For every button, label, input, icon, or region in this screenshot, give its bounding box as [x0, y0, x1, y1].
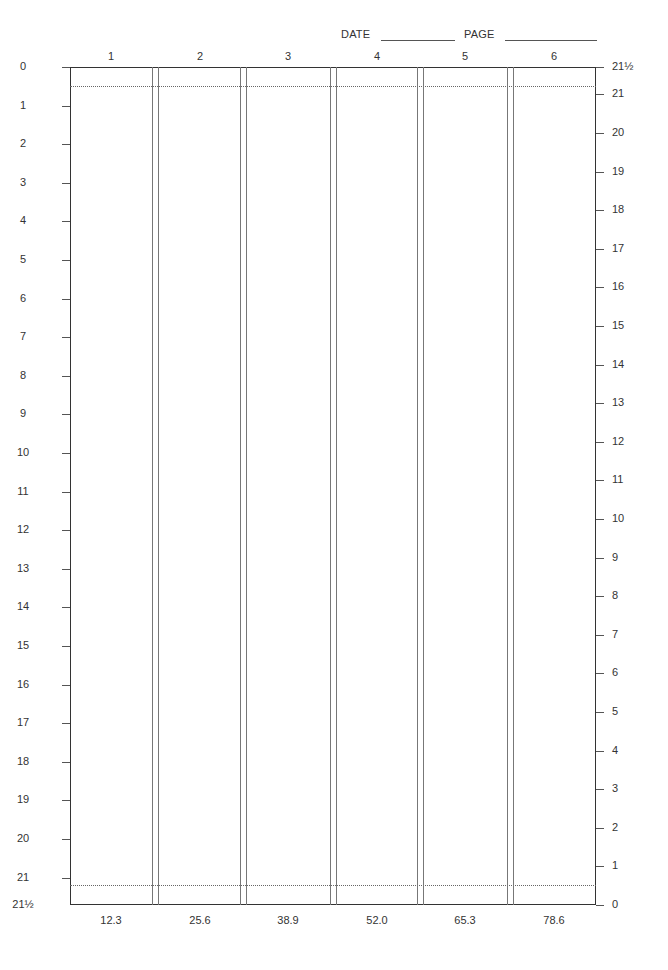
- left-scale-label: 20: [0, 832, 46, 844]
- right-scale-label: 21: [612, 87, 652, 99]
- right-scale-label: 8: [612, 589, 652, 601]
- right-scale-label: 14: [612, 358, 652, 370]
- right-tick: [596, 558, 604, 559]
- page-field[interactable]: [505, 40, 597, 41]
- left-tick: [62, 260, 70, 261]
- column-value-2: 25.6: [175, 914, 225, 926]
- right-tick: [596, 673, 604, 674]
- left-scale-label: 18: [0, 755, 46, 767]
- left-tick: [62, 685, 70, 686]
- column-divider: [513, 67, 514, 905]
- column-divider: [330, 67, 331, 905]
- left-tick: [62, 762, 70, 763]
- left-scale-label: 16: [0, 678, 46, 690]
- right-tick: [596, 519, 604, 520]
- right-tick: [596, 249, 604, 250]
- left-tick: [62, 607, 70, 608]
- right-scale-label: 6: [612, 666, 652, 678]
- right-tick: [596, 210, 604, 211]
- right-scale-label: 20: [612, 126, 652, 138]
- right-scale-label: 17: [612, 242, 652, 254]
- page-label: PAGE: [464, 28, 495, 40]
- right-tick: [596, 67, 604, 68]
- left-tick: [62, 569, 70, 570]
- left-scale-label: 12: [0, 523, 46, 535]
- column-value-1: 12.3: [86, 914, 136, 926]
- left-tick: [62, 144, 70, 145]
- left-scale-label: 21: [0, 871, 46, 883]
- right-tick: [596, 326, 604, 327]
- left-tick: [62, 878, 70, 879]
- column-label-5: 5: [445, 50, 485, 62]
- left-tick: [62, 800, 70, 801]
- right-tick: [596, 751, 604, 752]
- column-label-2: 2: [180, 50, 220, 62]
- column-value-3: 38.9: [263, 914, 313, 926]
- right-scale-label: 18: [612, 203, 652, 215]
- right-scale-label: 15: [612, 319, 652, 331]
- right-tick: [596, 365, 604, 366]
- left-tick: [62, 221, 70, 222]
- right-tick: [596, 712, 604, 713]
- left-scale-label: 21½: [0, 898, 46, 910]
- left-tick: [62, 376, 70, 377]
- right-tick: [596, 905, 604, 906]
- right-tick: [596, 635, 604, 636]
- right-tick: [596, 403, 604, 404]
- left-scale-label: 19: [0, 793, 46, 805]
- right-scale-label: 3: [612, 782, 652, 794]
- left-scale-label: 5: [0, 253, 46, 265]
- column-divider: [152, 67, 153, 905]
- right-scale-label: 11: [612, 473, 652, 485]
- left-scale-label: 9: [0, 407, 46, 419]
- right-tick: [596, 287, 604, 288]
- right-scale-label: 2: [612, 821, 652, 833]
- left-tick: [62, 337, 70, 338]
- right-tick: [596, 596, 604, 597]
- column-label-6: 6: [534, 50, 574, 62]
- right-tick: [596, 442, 604, 443]
- left-tick: [62, 106, 70, 107]
- column-value-4: 52.0: [352, 914, 402, 926]
- left-tick: [62, 299, 70, 300]
- bottom-guide-line: [70, 885, 596, 886]
- right-scale-label: 16: [612, 280, 652, 292]
- right-tick: [596, 828, 604, 829]
- date-field[interactable]: [381, 40, 455, 41]
- grid-frame: [70, 67, 596, 905]
- left-scale-label: 7: [0, 330, 46, 342]
- column-value-6: 78.6: [529, 914, 579, 926]
- right-scale-label: 5: [612, 705, 652, 717]
- left-tick: [62, 453, 70, 454]
- right-tick: [596, 172, 604, 173]
- left-scale-label: 10: [0, 446, 46, 458]
- right-scale-label: 21½: [612, 60, 652, 72]
- right-scale-label: 19: [612, 165, 652, 177]
- right-tick: [596, 94, 604, 95]
- left-tick: [62, 183, 70, 184]
- right-tick: [596, 789, 604, 790]
- right-scale-label: 7: [612, 628, 652, 640]
- right-tick: [596, 866, 604, 867]
- column-divider: [240, 67, 241, 905]
- right-tick: [596, 133, 604, 134]
- left-scale-label: 4: [0, 214, 46, 226]
- right-scale-label: 9: [612, 551, 652, 563]
- column-label-1: 1: [91, 50, 131, 62]
- column-divider: [336, 67, 337, 905]
- left-tick: [62, 492, 70, 493]
- left-scale-label: 15: [0, 639, 46, 651]
- left-scale-label: 17: [0, 716, 46, 728]
- left-scale-label: 8: [0, 369, 46, 381]
- left-scale-label: 14: [0, 600, 46, 612]
- left-tick: [62, 67, 70, 68]
- left-tick: [62, 646, 70, 647]
- left-scale-label: 13: [0, 562, 46, 574]
- column-divider: [507, 67, 508, 905]
- right-scale-label: 10: [612, 512, 652, 524]
- date-label: DATE: [341, 28, 370, 40]
- left-scale-label: 2: [0, 137, 46, 149]
- right-scale-label: 13: [612, 396, 652, 408]
- column-label-3: 3: [268, 50, 308, 62]
- column-value-5: 65.3: [440, 914, 490, 926]
